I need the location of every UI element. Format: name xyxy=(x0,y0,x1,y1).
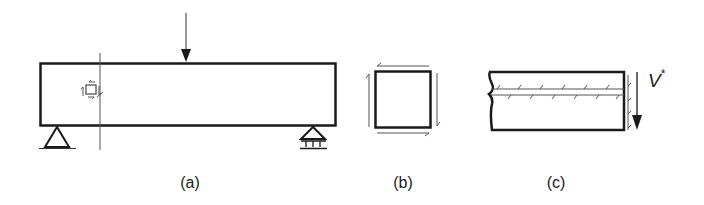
panel-label-a: (a) xyxy=(180,174,200,192)
shear-arrow-top-icon xyxy=(377,63,429,66)
shear-force-label: V* xyxy=(648,69,665,92)
panel-label-b: (b) xyxy=(393,174,413,192)
shear-arrow-bottom-icon xyxy=(377,133,429,136)
pin-support-icon xyxy=(39,127,76,149)
shear-force-symbol: V xyxy=(648,70,661,91)
shear-element xyxy=(376,72,431,128)
shear-force-superscript: * xyxy=(661,67,666,81)
shear-arrow-right-icon xyxy=(437,73,440,126)
shear-arrow-left-icon xyxy=(366,74,369,127)
edge-shear-lines-icon xyxy=(628,75,631,130)
roller-support-icon xyxy=(300,127,327,149)
beam-segment xyxy=(489,72,624,130)
point-load-arrow-icon xyxy=(181,13,191,62)
beam-shear-figure: V* (a) (b) (c) xyxy=(0,0,704,205)
panel-b-element xyxy=(366,63,440,136)
shear-ticks-upper-icon xyxy=(497,85,609,89)
panel-a-beam xyxy=(39,13,336,150)
panel-label-c: (c) xyxy=(547,174,566,192)
panel-c-segment xyxy=(489,72,642,130)
shear-force-arrow-icon xyxy=(632,72,642,130)
shear-ticks-lower-icon xyxy=(508,95,619,99)
beam-body xyxy=(41,64,336,126)
